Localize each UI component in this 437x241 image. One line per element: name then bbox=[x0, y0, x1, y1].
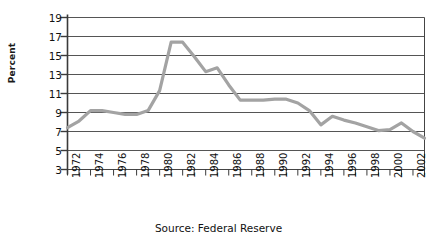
x-axis-tick-label: 1976 bbox=[118, 153, 128, 178]
x-axis-tick-label: 2000 bbox=[394, 153, 404, 178]
x-axis-tick-label: 1980 bbox=[164, 153, 174, 178]
y-axis-tick-label: 9 bbox=[46, 108, 62, 118]
x-axis-tick-label: 1992 bbox=[302, 153, 312, 178]
y-axis-title: Percent bbox=[7, 33, 17, 93]
y-axis-tick-label: 11 bbox=[46, 89, 62, 99]
y-axis-tick-labels: 19171513119753 bbox=[40, 0, 62, 241]
chart-source-caption: Source: Federal Reserve bbox=[0, 222, 437, 234]
y-axis-tick-label: 7 bbox=[46, 127, 62, 137]
y-axis-tick-label: 3 bbox=[46, 165, 62, 175]
x-axis-tick-label: 1998 bbox=[371, 153, 381, 178]
x-axis-tick-label: 1988 bbox=[256, 153, 266, 178]
y-axis-tick-label: 17 bbox=[46, 32, 62, 42]
x-axis-tick-label: 1974 bbox=[95, 153, 105, 178]
x-axis-tick-label: 1996 bbox=[348, 153, 358, 178]
y-axis-tick-label: 5 bbox=[46, 146, 62, 156]
x-axis-tick-label: 1978 bbox=[141, 153, 151, 178]
x-axis-tick-label: 1990 bbox=[279, 153, 289, 178]
x-axis-tick-label: 2002 bbox=[417, 153, 427, 178]
x-axis-tick-label: 1984 bbox=[210, 153, 220, 178]
x-axis-tick-label: 1994 bbox=[325, 153, 335, 178]
x-axis-tick-label: 1986 bbox=[233, 153, 243, 178]
y-axis-tick-label: 13 bbox=[46, 70, 62, 80]
x-axis-tick-label: 1982 bbox=[187, 153, 197, 178]
x-axis-tick-label: 1972 bbox=[72, 153, 82, 178]
y-axis-tick-label: 15 bbox=[46, 51, 62, 61]
chart-figure: Percent 19171513119753 19721974197619781… bbox=[0, 0, 437, 241]
y-axis-tick-label: 19 bbox=[46, 13, 62, 23]
chart-plot-area bbox=[0, 0, 437, 241]
data-series-line bbox=[68, 42, 425, 138]
